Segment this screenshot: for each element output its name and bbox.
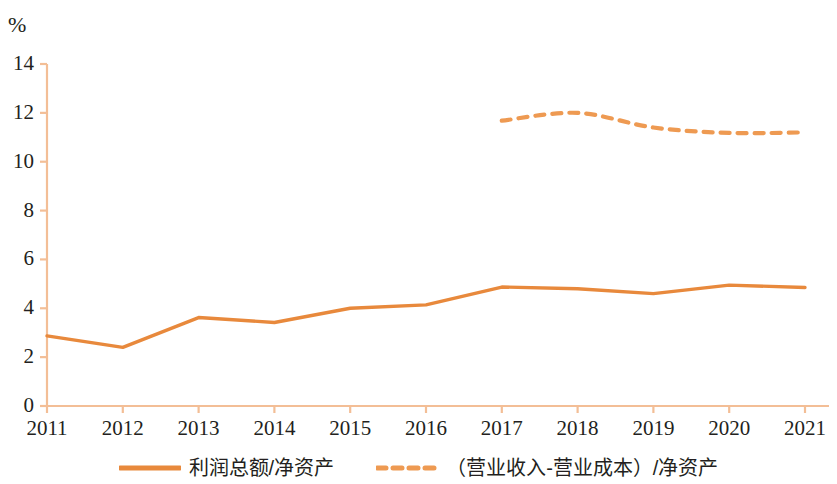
legend-label: 利润总额/净资产 <box>189 458 335 478</box>
y-axis-tick-label: 10 <box>0 151 34 172</box>
x-axis-tick-label: 2018 <box>541 418 615 439</box>
axes-group <box>40 64 829 413</box>
series-line-dashed <box>502 113 805 133</box>
y-axis-tick-label: 4 <box>0 297 34 318</box>
y-axis-tick-label: 0 <box>0 395 34 416</box>
legend-label: （营业收入-营业成本）/净资产 <box>446 458 718 478</box>
x-axis-tick-label: 2016 <box>389 418 463 439</box>
x-axis-tick-label: 2017 <box>465 418 539 439</box>
y-axis-tick-label: 8 <box>0 200 34 221</box>
legend-item[interactable]: （营业收入-营业成本）/净资产 <box>376 458 718 478</box>
y-axis-tick-label: 14 <box>0 53 34 74</box>
chart-legend: 利润总额/净资产（营业收入-营业成本）/净资产 <box>0 458 837 478</box>
y-axis-tick-label: 2 <box>0 346 34 367</box>
plot-area <box>0 0 837 484</box>
line-chart: % 02468101214 20112012201320142015201620… <box>0 0 837 484</box>
legend-item[interactable]: 利润总额/净资产 <box>119 458 335 478</box>
x-axis-tick-label: 2011 <box>10 418 84 439</box>
solid-line-swatch <box>119 461 181 475</box>
y-axis-tick-label: 6 <box>0 248 34 269</box>
y-axis-tick-label: 12 <box>0 102 34 123</box>
x-axis-tick-label: 2021 <box>768 418 837 439</box>
x-axis-tick-label: 2012 <box>86 418 160 439</box>
x-axis-tick-label: 2015 <box>313 418 387 439</box>
x-axis-tick-label: 2014 <box>237 418 311 439</box>
dashed-line-swatch <box>376 461 438 475</box>
x-axis-tick-label: 2020 <box>692 418 766 439</box>
x-axis-tick-label: 2019 <box>616 418 690 439</box>
x-axis-tick-label: 2013 <box>162 418 236 439</box>
series-line-solid <box>47 285 805 347</box>
series-group <box>47 113 805 348</box>
